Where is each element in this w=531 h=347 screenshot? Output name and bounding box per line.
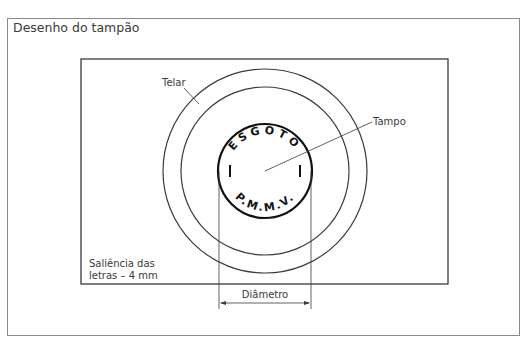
arrow-right-icon xyxy=(304,301,310,305)
stamp-top-text: ESGOTO xyxy=(226,124,304,154)
diametro-label: Diâmetro xyxy=(242,289,288,300)
manhole-cover-drawing: ESGOTO P.M.M.V. Telar Tampo Saliência da… xyxy=(0,0,531,347)
saliencia-label-line1: Saliência das xyxy=(89,258,155,269)
arrow-left-icon xyxy=(220,301,226,305)
tampo-label: Tampo xyxy=(372,116,406,127)
telar-label: Telar xyxy=(161,77,186,88)
stamp-bottom-text: P.M.M.V. xyxy=(233,190,297,214)
inner-rectangle xyxy=(81,59,448,284)
saliencia-label-line2: letras – 4 mm xyxy=(89,270,158,281)
